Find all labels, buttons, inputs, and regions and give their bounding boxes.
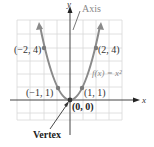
curve-arrow-right-icon — [97, 22, 104, 30]
y-axis-label: y — [67, 0, 71, 9]
point-label-neg2-4: (−2, 4) — [14, 45, 41, 55]
vertex-callout-label: Vertex — [33, 130, 61, 140]
x-axis-label: x — [142, 96, 146, 105]
x-axis-arrow-icon — [133, 98, 140, 103]
graph-canvas — [0, 0, 154, 147]
curve-arrow-left-icon — [36, 22, 43, 30]
point-label-2-4: (2, 4) — [98, 45, 120, 55]
vertex-callout-line — [50, 103, 68, 129]
axis-callout-label: Axis — [82, 4, 101, 14]
parabola-figure: y x Axis (−2, 4) (−1, 1) (0, 0) (1, 1) (… — [0, 0, 154, 147]
function-label: f(x) = x² — [92, 69, 122, 78]
point-label-1-1: (1, 1) — [84, 88, 106, 98]
point-label-neg1-1: (−1, 1) — [26, 88, 53, 98]
y-axis — [68, 6, 73, 135]
point-neg1-1 — [56, 86, 60, 90]
vertex-arrow-icon — [64, 101, 69, 107]
point-label-vertex: (0, 0) — [72, 102, 94, 112]
axis-callout-line — [73, 11, 80, 30]
point-neg2-4 — [42, 46, 46, 50]
